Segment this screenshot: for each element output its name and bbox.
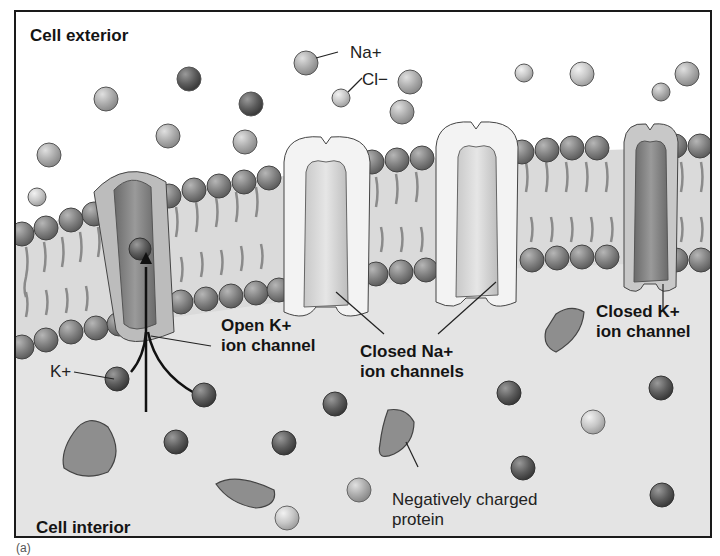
cell-exterior-label: Cell exterior bbox=[30, 26, 128, 46]
closed-na-channels-label-line2: ion channels bbox=[360, 362, 464, 382]
k-ion-label: K+ bbox=[50, 362, 71, 382]
closed-na-channel-2 bbox=[436, 122, 518, 306]
membrane-diagram: Cell exterior Cell interior Na+ Cl− K+ O… bbox=[14, 10, 712, 538]
closed-na-channels-label-line1: Closed Na+ bbox=[360, 342, 453, 362]
closed-k-channel bbox=[624, 124, 678, 292]
diagram-illustration bbox=[16, 12, 712, 538]
closed-na-channel-1 bbox=[284, 137, 370, 316]
panel-label: (a) bbox=[16, 541, 31, 555]
cl-ion-label: Cl− bbox=[362, 70, 388, 90]
protein-label-line2: protein bbox=[392, 510, 444, 530]
protein-label-line1: Negatively charged bbox=[392, 490, 538, 510]
closed-k-channel-label-line1: Closed K+ bbox=[596, 302, 680, 322]
cell-interior-label: Cell interior bbox=[36, 518, 130, 538]
open-k-channel-label-line1: Open K+ bbox=[221, 316, 291, 336]
open-k-channel-label-line2: ion channel bbox=[221, 336, 315, 356]
na-ion-label: Na+ bbox=[350, 43, 382, 63]
closed-k-channel-label-line2: ion channel bbox=[596, 322, 690, 342]
